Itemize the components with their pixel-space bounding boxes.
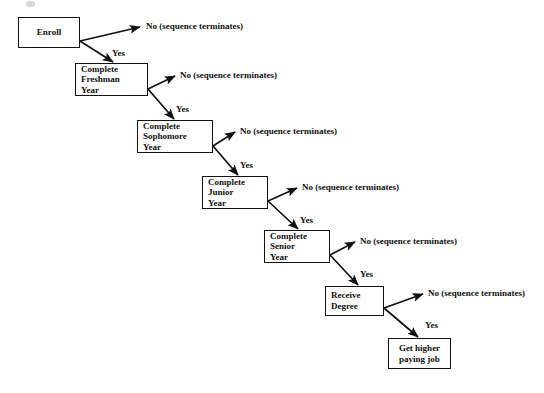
flow-edge-label-senior-no: No (sequence terminates) — [360, 236, 457, 246]
flow-arrow-degree-yes — [384, 308, 418, 337]
flow-node-enroll: Enroll — [18, 17, 80, 48]
flow-node-label: Sophomore — [143, 131, 207, 142]
flow-arrow-degree-no — [384, 294, 423, 308]
flow-node-label: Year — [143, 142, 207, 153]
flow-arrow-freshman-no — [148, 76, 175, 89]
flow-node-label: Degree — [331, 301, 378, 312]
flow-arrow-freshman-yes — [148, 89, 174, 119]
flow-node-freshman: CompleteFreshmanYear — [75, 63, 148, 96]
flow-edge-label-freshman-yes: Yes — [176, 104, 189, 114]
flow-arrow-senior-no — [330, 242, 355, 255]
flow-node-label: Enroll — [24, 27, 74, 38]
flowchart-canvas: EnrollCompleteFreshmanYearCompleteSophom… — [0, 0, 544, 393]
flow-node-label: Get higher — [394, 343, 445, 354]
flow-node-label: Freshman — [81, 74, 142, 85]
flow-node-label: Complete — [143, 121, 207, 132]
flow-node-degree: ReceiveDegree — [325, 286, 384, 316]
flow-node-label: Receive — [331, 290, 378, 301]
flow-node-label: Year — [81, 85, 142, 96]
flow-edge-label-junior-no: No (sequence terminates) — [302, 182, 399, 192]
flow-edge-label-enroll-yes: Yes — [112, 48, 125, 58]
flow-arrow-enroll-no — [80, 27, 140, 41]
flow-node-junior: CompleteJuniorYear — [202, 176, 268, 209]
flow-edge-label-senior-yes: Yes — [360, 269, 373, 279]
flow-node-label: Complete — [81, 64, 142, 75]
flow-arrow-sophomore-yes — [213, 146, 238, 175]
flow-arrow-senior-yes — [330, 255, 358, 285]
flowchart-connectors — [0, 0, 544, 393]
scan-artifact-smudge — [26, 1, 35, 7]
flow-node-label: Complete — [270, 231, 324, 242]
flow-arrow-enroll-yes — [80, 41, 113, 62]
flow-node-label: Senior — [270, 241, 324, 252]
flow-edge-label-enroll-no: No (sequence terminates) — [146, 21, 243, 31]
flow-node-label: Year — [208, 198, 262, 209]
flow-edge-label-degree-yes: Yes — [425, 320, 438, 330]
flow-edge-label-freshman-no: No (sequence terminates) — [180, 70, 277, 80]
flow-node-sophomore: CompleteSophomoreYear — [137, 120, 213, 153]
flow-node-label: Junior — [208, 187, 262, 198]
flow-edge-label-sophomore-yes: Yes — [240, 160, 253, 170]
flow-edge-label-sophomore-no: No (sequence terminates) — [240, 126, 337, 136]
flow-node-job: Get higherpaying job — [388, 338, 451, 369]
flow-arrow-sophomore-no — [213, 132, 235, 146]
flow-arrow-junior-yes — [268, 201, 298, 229]
flow-node-senior: CompleteSeniorYear — [264, 230, 330, 263]
flow-arrow-junior-no — [268, 188, 297, 201]
flow-edge-label-degree-no: No (sequence terminates) — [428, 288, 525, 298]
flow-edge-label-junior-yes: Yes — [300, 215, 313, 225]
flow-node-label: Year — [270, 252, 324, 263]
flow-node-label: Complete — [208, 177, 262, 188]
flow-node-label: paying job — [394, 354, 445, 365]
